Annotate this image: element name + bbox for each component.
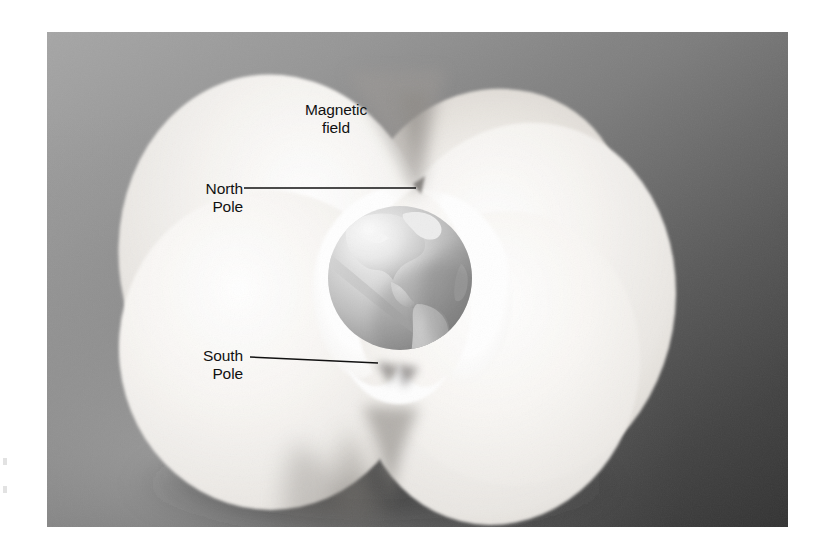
south-pole-label: South Pole — [173, 347, 243, 383]
figure-illustration — [47, 32, 788, 527]
magnetic-field-label-line2: field — [280, 119, 392, 137]
scan-artifact-mark — [3, 458, 7, 465]
magnetic-field-figure — [47, 32, 788, 527]
scan-artifact-mark — [3, 486, 7, 493]
figure-page: Magnetic field North Pole South Pole — [0, 0, 821, 548]
north-pole-label-line2: Pole — [173, 198, 243, 216]
magnetic-field-label-line1: Magnetic — [280, 101, 392, 119]
north-pole-label-line1: North — [173, 180, 243, 198]
north-pole-label: North Pole — [173, 180, 243, 216]
south-pole-label-line1: South — [173, 347, 243, 365]
magnetic-field-label: Magnetic field — [280, 101, 392, 137]
south-pole-label-line2: Pole — [173, 365, 243, 383]
